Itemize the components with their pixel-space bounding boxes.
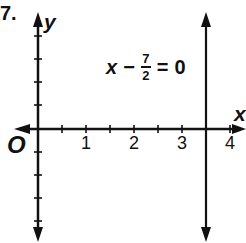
equation-minus: − <box>123 56 135 79</box>
y-axis-arrow-down-icon <box>33 227 43 242</box>
x-tick-label-2: 2 <box>124 133 144 154</box>
line-arrow-down-icon <box>201 227 211 242</box>
coordinate-plane <box>0 0 246 243</box>
origin-label: O <box>7 131 26 159</box>
equation-equals: = <box>157 56 169 79</box>
x-tick-label-4: 4 <box>220 133 240 154</box>
y-axis-arrow-up-icon <box>33 12 43 27</box>
equation-rhs: 0 <box>175 56 186 79</box>
x-tick-label-3: 3 <box>172 133 192 154</box>
problem-number: 7. <box>0 2 17 25</box>
line-equation-annotation: x − 7 2 = 0 <box>106 52 186 82</box>
fraction-numerator: 7 <box>142 52 149 65</box>
line-arrow-up-icon <box>201 12 211 27</box>
fraction-denominator: 2 <box>142 69 149 82</box>
x-axis-label: x <box>234 102 246 126</box>
equation-fraction: 7 2 <box>141 52 151 82</box>
x-tick-label-1: 1 <box>76 133 96 154</box>
y-axis-label: y <box>44 10 56 34</box>
equation-variable: x <box>106 56 117 79</box>
